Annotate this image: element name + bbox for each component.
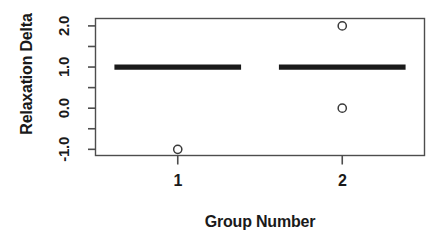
tick-marks	[88, 26, 342, 165]
boxplot-figure: Relaxation Delta Group Number -1.0 0.0 1…	[0, 0, 439, 248]
axis-frame	[96, 19, 425, 156]
plot-area	[0, 0, 439, 248]
outlier-points	[174, 22, 347, 154]
